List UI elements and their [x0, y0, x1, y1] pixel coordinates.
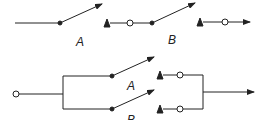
- series-switch-a-label: A: [75, 35, 84, 49]
- parallel-switch-a-contact-triangle: [157, 71, 163, 79]
- switch-a-contact-triangle: [104, 19, 110, 27]
- series-circuit: [15, 3, 250, 27]
- parallel-switch-a-blade-arrow: [112, 57, 154, 76]
- switch-a-blade-arrow: [60, 4, 102, 23]
- series-junction-node: [127, 20, 133, 26]
- parallel-switch-a-label: A: [126, 79, 135, 93]
- parallel-input-node: [13, 91, 19, 97]
- series-switch-b-label: B: [168, 33, 176, 47]
- parallel-switch-b-contact-triangle: [157, 105, 163, 113]
- switch-diagram: A B A B: [0, 0, 262, 120]
- switch-b-contact-triangle: [197, 18, 203, 26]
- parallel-branch-b-node: [177, 106, 183, 112]
- switch-b-blade-arrow: [152, 3, 195, 23]
- series-output-node: [222, 19, 228, 25]
- parallel-switch-b-label: B: [127, 113, 135, 120]
- parallel-branch-a-node: [177, 72, 183, 78]
